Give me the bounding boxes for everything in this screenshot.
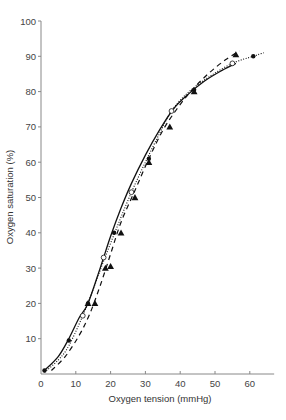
solid-curve [44,63,235,370]
filled-triangle-marker [85,300,92,306]
filled-triangle-marker [166,124,173,130]
filled-circle-marker [67,338,71,342]
y-tick-label: 70 [25,121,36,132]
open-circle-marker [80,313,85,318]
filled-triangle-marker [145,159,152,165]
x-tick-label: 20 [105,378,116,389]
dotted-curve [44,53,263,372]
filled-triangle-marker [92,300,99,306]
dashed-curve [51,51,239,370]
y-tick-label: 50 [25,192,36,203]
open-circle-marker [129,190,134,195]
y-tick-label: 90 [25,51,36,62]
filled-triangle-marker [102,265,109,271]
series-dotted [44,53,263,372]
series-layer [42,51,263,373]
y-tick-label: 100 [20,16,36,27]
oxygen-dissociation-chart: 1020304050607080901000102030405060 Oxyge… [0,0,286,420]
filled-triangle-marker [107,263,114,269]
y-tick-label: 30 [25,263,36,274]
open-circle-marker [230,61,235,66]
axes: 1020304050607080901000102030405060 [20,16,274,390]
x-tick-label: 10 [71,378,82,389]
x-axis-label: Oxygen tension (mmHg) [109,393,212,404]
series-dashed [51,51,239,370]
y-tick-label: 80 [25,86,36,97]
y-axis-label: Oxygen saturation (%) [4,150,15,245]
x-tick-label: 40 [175,378,186,389]
y-tick-label: 40 [25,227,36,238]
x-tick-label: 30 [140,378,151,389]
y-tick-label: 60 [25,157,36,168]
x-tick-label: 60 [245,378,256,389]
y-tick-label: 20 [25,298,36,309]
x-tick-label: 50 [210,378,221,389]
open-circle-marker [169,109,174,114]
y-tick-label: 10 [25,333,36,344]
series-solid [42,54,255,373]
open-circle-marker [101,255,106,260]
x-tick-label: 0 [38,378,43,389]
